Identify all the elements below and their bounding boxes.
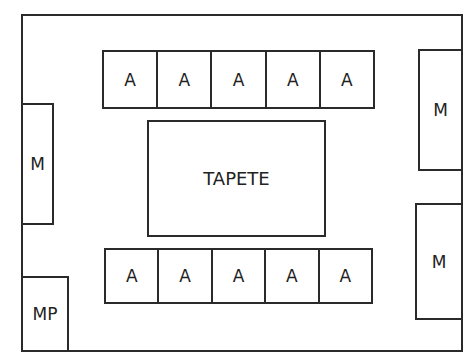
top-a-row: A A A A A (102, 50, 375, 109)
bottom-a-cell: A (320, 250, 371, 302)
right-m-top-label: M (433, 100, 448, 120)
right-m-top-box: M (418, 49, 463, 171)
tapete-box: TAPETE (147, 120, 326, 237)
top-a-cell: A (104, 52, 158, 107)
left-mp-box: MP (21, 276, 69, 352)
top-a-cell: A (321, 52, 373, 107)
bottom-a-cell: A (266, 250, 319, 302)
bottom-a-row: A A A A A (104, 248, 373, 304)
left-m-box: M (21, 103, 54, 225)
bottom-a-cell: A (106, 250, 159, 302)
bottom-a-cell: A (213, 250, 266, 302)
right-m-bottom-box: M (415, 203, 463, 320)
top-a-cell: A (158, 52, 212, 107)
left-m-label: M (30, 154, 45, 174)
tapete-label: TAPETE (203, 168, 270, 189)
bottom-a-cell: A (159, 250, 212, 302)
left-mp-label: MP (33, 304, 58, 324)
top-a-cell: A (267, 52, 321, 107)
top-a-cell: A (212, 52, 266, 107)
right-m-bottom-label: M (432, 252, 447, 272)
